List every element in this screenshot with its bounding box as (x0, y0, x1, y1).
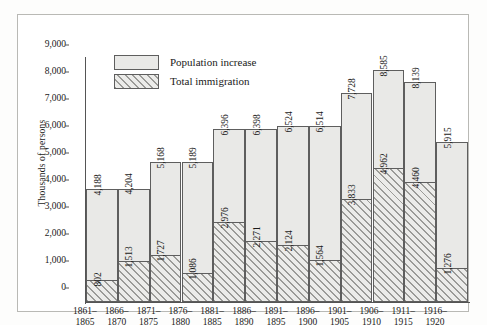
bar-group: 5,1891,086 (182, 59, 214, 302)
bar-value-label-population-increase: 8,585 (380, 55, 390, 76)
bar-value-label-total-immigration: 2,124 (284, 230, 294, 251)
bar-value-label-population-increase: 5,915 (443, 127, 453, 148)
bar-value-label-population-increase: 6,524 (284, 111, 294, 132)
bar-value-label-total-immigration: 1,513 (125, 246, 135, 267)
x-axis-tick-label: 1901–1905 (324, 306, 356, 325)
bar-total-immigration (245, 241, 277, 302)
x-axis-tick-label: 1881–1885 (196, 306, 228, 325)
bar-value-label-total-immigration: 2,271 (252, 226, 262, 247)
x-axis-tick-label: 1911–1915 (387, 306, 419, 325)
bar-value-label-population-increase: 6,398 (252, 114, 262, 135)
bar-group: 7,7283,833 (341, 59, 373, 302)
bar-group: 6,5242,124 (277, 59, 309, 302)
bar-value-label-total-immigration: 4,962 (380, 153, 390, 174)
bar-value-label-population-increase: 5,168 (157, 148, 167, 169)
bar-value-label-population-increase: 6,396 (220, 114, 230, 135)
y-axis-tick-mark (65, 126, 69, 127)
bar-group: 4,2041,513 (118, 59, 150, 302)
chart-frame: Thousands of persons 01,0002,0003,0004,0… (17, 14, 469, 312)
bar-group: 6,3962,976 (213, 59, 245, 302)
bar-value-label-total-immigration: 1,086 (189, 258, 199, 279)
x-axis-tick-label: 1871–1875 (133, 306, 165, 325)
bar-group: 5,1681,727 (150, 59, 182, 302)
legend-swatch-total-immigration (114, 74, 159, 89)
y-axis-tick-mark (65, 45, 69, 46)
x-axis-tick-label: 1866–1870 (101, 306, 133, 325)
chart-figure: Thousands of persons 01,0002,0003,0004,0… (0, 0, 487, 325)
x-axis-tick-label: 1861–1865 (69, 306, 101, 325)
chart-legend: Population increase Total immigration (114, 55, 256, 93)
y-axis-tick-mark (65, 180, 69, 181)
bar-value-label-population-increase: 5,189 (189, 147, 199, 168)
y-axis-tick-mark (65, 261, 69, 262)
bar-total-immigration (373, 168, 405, 302)
legend-label-population-increase: Population increase (170, 57, 256, 68)
y-axis-tick-mark (65, 288, 69, 289)
x-axis-tick-label: 1916–1920 (419, 306, 451, 325)
legend-label-total-immigration: Total immigration (170, 76, 250, 87)
bar-value-label-population-increase: 4,188 (93, 174, 103, 195)
legend-item-population-increase: Population increase (114, 55, 256, 70)
bar-total-immigration (277, 245, 309, 302)
y-axis-tick-mark (65, 99, 69, 100)
x-axis-tick-label: 1891–1895 (260, 306, 292, 325)
bar-group: 6,3982,271 (245, 59, 277, 302)
bar-value-label-total-immigration: 1,727 (157, 240, 167, 261)
x-axis-line (85, 302, 470, 303)
bar-total-immigration (213, 222, 245, 302)
bar-value-label-total-immigration: 1,276 (443, 253, 453, 274)
x-axis-tick-label: 1906–1910 (356, 306, 388, 325)
bar-value-label-total-immigration: 1,564 (316, 245, 326, 266)
y-axis-tick-mark (65, 207, 69, 208)
bar-group: 4,188802 (86, 59, 118, 302)
legend-swatch-population-increase (114, 55, 159, 70)
y-axis-title: Thousands of persons (37, 120, 47, 207)
y-axis-tick-mark (65, 72, 69, 73)
bar-total-immigration (341, 199, 373, 302)
bar-value-label-population-increase: 4,204 (125, 174, 135, 195)
y-axis-tick-mark (65, 234, 69, 235)
x-axis-tick-label: 1876–1880 (165, 306, 197, 325)
x-axis-tick-label: 1896–1900 (292, 306, 324, 325)
x-axis-tick-label: 1886–1890 (228, 306, 260, 325)
plot-area: 4,1888024,2041,5135,1681,7275,1891,0866,… (86, 59, 468, 302)
bar-value-label-total-immigration: 2,976 (220, 207, 230, 228)
bar-value-label-population-increase: 7,728 (348, 78, 358, 99)
bar-group: 6,5141,564 (309, 59, 341, 302)
bar-value-label-total-immigration: 802 (93, 273, 103, 287)
bar-group: 8,1394,460 (404, 59, 436, 302)
bar-group: 8,5854,962 (373, 59, 405, 302)
bar-value-label-total-immigration: 4,460 (411, 167, 421, 188)
y-axis-tick-mark (65, 153, 69, 154)
bar-group: 5,9151,276 (436, 59, 468, 302)
bar-value-label-population-increase: 6,514 (316, 111, 326, 132)
bar-total-immigration (150, 255, 182, 302)
bar-value-label-population-increase: 8,139 (411, 67, 421, 88)
bar-value-label-total-immigration: 3,833 (348, 184, 358, 205)
bar-total-immigration (404, 182, 436, 302)
legend-item-total-immigration: Total immigration (114, 74, 256, 89)
